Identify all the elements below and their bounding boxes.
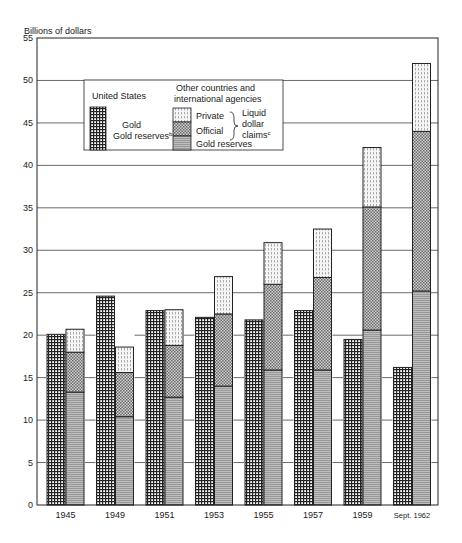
bar-other-private <box>116 347 134 372</box>
bar-other-gold <box>66 392 84 505</box>
bar-other-gold <box>314 370 332 505</box>
legend-official-label: Official <box>196 126 223 136</box>
legend-brace-2: dollar <box>242 119 264 129</box>
bar-other-official <box>264 284 282 370</box>
y-tick-label: 40 <box>23 160 33 170</box>
y-tick-label: 25 <box>23 288 33 298</box>
bar-other-gold <box>363 330 381 505</box>
bar-us-gold <box>47 334 65 505</box>
y-axis-label: Billions of dollars <box>24 26 92 36</box>
legend-brace-sup: c <box>268 130 271 136</box>
y-tick-label: 5 <box>28 458 33 468</box>
bar-other-private <box>314 229 332 277</box>
legend-brace-1: Liquid <box>242 108 266 118</box>
x-tick-label: 1959 <box>352 510 372 520</box>
legend-private-label: Private <box>196 111 224 121</box>
x-tick-label: 1957 <box>303 510 323 520</box>
bar-us-gold <box>344 339 362 505</box>
bar-us-gold <box>146 311 164 505</box>
y-axis-ticks: 0510152025303540455055 <box>23 33 33 510</box>
y-tick-label: 45 <box>23 118 33 128</box>
legend-other-heading-2: international agencies <box>174 94 262 104</box>
legend-swatch-us-gold <box>90 107 106 150</box>
bar-other-private <box>264 243 282 285</box>
y-tick-label: 20 <box>23 330 33 340</box>
bar-other-gold <box>215 386 233 505</box>
bar-other-official <box>363 207 381 330</box>
legend-us-gold-text: Gold reserves <box>113 131 170 141</box>
legend-brace-3: claimsc <box>242 130 271 140</box>
bar-other-private <box>66 329 84 352</box>
stacked-bar-chart: Billions of dollars 05101520253035404550… <box>0 0 462 543</box>
y-tick-label: 15 <box>23 373 33 383</box>
y-tick-label: 10 <box>23 415 33 425</box>
bar-other-private <box>165 310 183 346</box>
legend-us-gold-label-1: Gold <box>122 120 141 130</box>
bar-other-official <box>314 277 332 370</box>
legend-swatch-official <box>173 122 191 136</box>
y-tick-label: 0 <box>28 500 33 510</box>
bar-other-gold <box>116 417 134 505</box>
legend: United States Gold Gold reservesb Other … <box>84 80 283 150</box>
bar-other-gold <box>413 291 431 505</box>
legend-us-heading: United States <box>92 91 147 101</box>
bar-other-private <box>215 277 233 314</box>
legend-gold-label: Gold reserves <box>196 139 253 149</box>
bar-us-gold <box>245 320 263 505</box>
x-tick-label: 1945 <box>55 510 75 520</box>
y-tick-label: 50 <box>23 75 33 85</box>
bar-other-gold <box>165 397 183 505</box>
y-tick-label: 55 <box>23 33 33 43</box>
bar-other-gold <box>264 370 282 505</box>
bar-us-gold <box>295 311 313 505</box>
bar-other-official <box>413 131 431 291</box>
x-tick-label: 1955 <box>253 510 273 520</box>
bar-other-official <box>165 345 183 397</box>
bar-other-private <box>363 148 381 207</box>
y-tick-label: 35 <box>23 203 33 213</box>
x-tick-label: 1953 <box>204 510 224 520</box>
bar-us-gold <box>97 296 115 505</box>
x-tick-label: 1949 <box>105 510 125 520</box>
bar-other-official <box>116 373 134 417</box>
legend-swatch-private <box>173 108 191 122</box>
y-tick-label: 30 <box>23 245 33 255</box>
legend-other-heading-1: Other countries and <box>176 83 255 93</box>
bar-us-gold <box>196 317 214 505</box>
legend-brace-3-text: claims <box>242 130 268 140</box>
bar-us-gold <box>394 367 412 505</box>
bar-other-official <box>215 314 233 386</box>
bar-other-private <box>413 63 431 131</box>
x-tick-label: Sept. 1962 <box>394 511 430 520</box>
x-axis-ticks: 1945194919511953195519571959Sept. 1962 <box>55 510 430 520</box>
x-tick-label: 1951 <box>154 510 174 520</box>
legend-us-gold-label: Gold reservesb <box>113 131 173 141</box>
bar-other-official <box>66 352 84 392</box>
legend-swatch-gold <box>173 136 191 150</box>
